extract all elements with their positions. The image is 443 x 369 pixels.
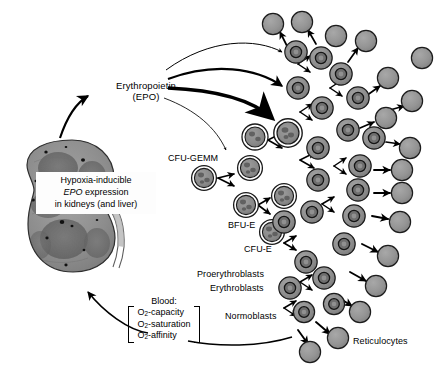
bfu-e-label: BFU-E	[228, 220, 255, 230]
bracket-left-icon	[128, 306, 134, 343]
epo-arrow-thin-bottom	[164, 98, 226, 150]
reticulocytes-label: Reticulocytes	[353, 336, 408, 346]
blood-title: Blood:	[112, 296, 216, 306]
epo-label-line2: (EPO)	[133, 91, 160, 102]
blood-parameter-list: O2-capacity O2-saturation O2-affinity	[128, 307, 199, 342]
proerythroblasts-label: Proerythroblasts	[197, 269, 264, 279]
bracket-right-icon	[194, 306, 200, 343]
kidney-box-line1: Hypoxia-inducible	[60, 175, 131, 185]
epo-arrow-thin-top	[166, 43, 282, 70]
cfu-gemm-label: CFU-GEMM	[168, 153, 218, 163]
blood-item-affinity: O2-affinity	[137, 330, 176, 340]
epo-label-line1: Erythropoietin	[116, 80, 176, 91]
erythroblasts-label: Erythroblasts	[210, 283, 264, 293]
epo-label: Erythropoietin (EPO)	[94, 81, 198, 103]
kidney-epo-arrow	[60, 96, 88, 138]
cell-cfu-e-sibling	[272, 184, 297, 209]
blood-item-saturation: O2-saturation	[137, 319, 190, 329]
blood-parameters-group: Blood: O2-capacity O2-saturation O2-affi…	[112, 296, 216, 342]
cell-bfu-e-sibling	[238, 156, 263, 181]
normoblasts-label: Normoblasts	[225, 311, 277, 321]
cfu-e-label: CFU-E	[244, 244, 272, 254]
cell-bfu-e	[234, 193, 259, 218]
figure-canvas: Erythropoietin (EPO) Hypoxia-inducible E…	[0, 0, 443, 369]
kidney-box-epo-italic: EPO	[63, 187, 82, 197]
kidney-box-line3: in kidneys (and liver)	[55, 199, 138, 209]
blood-item-capacity: O2-capacity	[137, 307, 184, 317]
kidney-epo-textbox: Hypoxia-inducible EPO expression in kidn…	[36, 172, 156, 214]
cell-blast-a	[242, 124, 268, 150]
cell-cfu-gemm	[192, 166, 217, 191]
kidney-box-line2-rest: expression	[82, 187, 128, 197]
cell-blast-large	[274, 119, 302, 147]
